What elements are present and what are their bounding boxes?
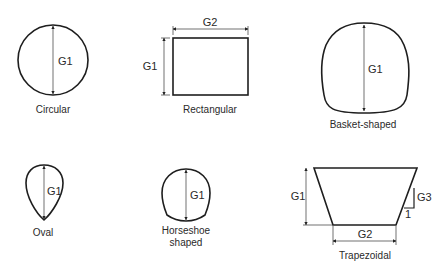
trapezoidal-g1-label: G1 — [291, 190, 306, 202]
trapezoidal-slope-label: 1 — [405, 208, 411, 220]
trapezoidal-g3-label: G3 — [417, 191, 432, 203]
rectangular-shape: G2 G1 Rectangular — [143, 16, 248, 115]
oval-g1-label: G1 — [47, 185, 62, 197]
oval-shape: G1 Oval — [26, 165, 63, 238]
trapezoidal-label: Trapezoidal — [339, 250, 391, 261]
rectangular-label: Rectangular — [183, 104, 238, 115]
basket-g1-label: G1 — [368, 63, 383, 75]
horseshoe-shape: G1 Horseshoe shaped — [162, 169, 211, 248]
circular-shape: G1 Circular — [18, 25, 88, 115]
horseshoe-g1-label: G1 — [190, 189, 205, 201]
circular-label: Circular — [36, 104, 71, 115]
oval-label: Oval — [33, 227, 54, 238]
horseshoe-label-line1: Horseshoe — [162, 225, 211, 236]
trapezoidal-shape: G1 G2 G3 1 Trapezoidal — [291, 168, 432, 261]
shapes-diagram: G1 Circular G2 G1 Rectangular G1 Basket-… — [0, 0, 446, 270]
trapezoidal-g2-label: G2 — [358, 228, 373, 240]
circular-g1-label: G1 — [58, 55, 73, 67]
rectangular-g2-label: G2 — [203, 16, 218, 28]
rectangular-g1-label: G1 — [143, 60, 158, 72]
horseshoe-label-line2: shaped — [170, 237, 203, 248]
basket-shaped-shape: G1 Basket-shaped — [322, 23, 409, 130]
basket-shaped-label: Basket-shaped — [330, 119, 397, 130]
